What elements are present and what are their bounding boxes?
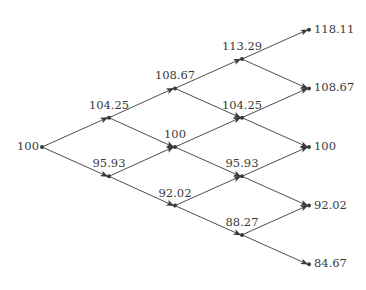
tree-edge-arrow bbox=[242, 59, 308, 88]
tree-node-dot bbox=[240, 174, 244, 178]
node-value-label: 108.67 bbox=[155, 70, 195, 82]
tree-node-dot bbox=[307, 262, 311, 266]
tree-node-dot bbox=[107, 116, 111, 120]
tree-edge-arrow bbox=[242, 176, 308, 205]
tree-node-dot bbox=[240, 116, 244, 120]
tree-node-dot bbox=[240, 233, 244, 237]
tree-node-dot bbox=[307, 204, 311, 208]
node-value-label: 104.25 bbox=[89, 100, 129, 112]
node-value-label: 100 bbox=[314, 141, 336, 153]
node-value-label: 95.93 bbox=[93, 158, 126, 170]
tree-node-dot bbox=[240, 57, 244, 61]
node-value-label: 100 bbox=[164, 129, 186, 141]
node-value-label: 95.93 bbox=[226, 158, 259, 170]
tree-nodes bbox=[40, 28, 311, 266]
node-value-label: 104.25 bbox=[222, 100, 262, 112]
node-value-label: 88.27 bbox=[226, 217, 259, 229]
tree-node-dot bbox=[173, 145, 177, 149]
tree-node-dot bbox=[173, 204, 177, 208]
node-value-label: 118.11 bbox=[314, 24, 354, 36]
tree-node-dot bbox=[173, 86, 177, 90]
tree-node-dot bbox=[307, 145, 311, 149]
node-value-label: 92.02 bbox=[314, 200, 347, 212]
tree-edge-arrow bbox=[242, 235, 308, 264]
tree-edge-arrow bbox=[242, 118, 308, 147]
node-value-label: 100 bbox=[17, 141, 39, 153]
node-value-label: 108.67 bbox=[314, 82, 354, 94]
tree-edge-arrow bbox=[42, 118, 108, 147]
tree-node-dot bbox=[40, 145, 44, 149]
tree-node-dot bbox=[307, 28, 311, 32]
node-value-label: 113.29 bbox=[222, 41, 262, 53]
binomial-tree-diagram bbox=[0, 0, 366, 290]
node-value-label: 84.67 bbox=[314, 258, 347, 270]
tree-node-dot bbox=[107, 174, 111, 178]
tree-node-dot bbox=[307, 86, 311, 90]
node-value-label: 92.02 bbox=[159, 188, 192, 200]
